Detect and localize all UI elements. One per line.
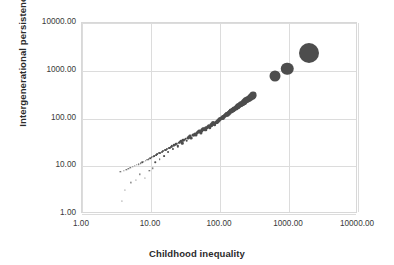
data-point	[126, 169, 127, 170]
data-point	[134, 165, 135, 166]
plot-area	[81, 22, 357, 213]
data-point	[155, 161, 157, 163]
gridline-vertical	[358, 23, 359, 212]
data-point	[128, 168, 129, 169]
y-axis-tick-label: 1000.00	[30, 65, 76, 74]
data-point	[135, 179, 136, 180]
data-point	[123, 170, 124, 171]
data-point	[167, 151, 169, 153]
data-point	[185, 139, 188, 142]
y-axis-tick-label: 1.00	[30, 208, 76, 217]
x-axis-title: Childhood inequality	[0, 243, 394, 261]
data-point	[121, 200, 122, 201]
data-point	[172, 148, 174, 150]
y-axis-title-text: Intergenerational persistence	[17, 0, 28, 127]
data-point	[132, 166, 133, 167]
x-axis-title-text: Childhood inequality	[149, 248, 245, 259]
y-axis-title: Intergenerational persistence	[12, 0, 26, 144]
data-point	[250, 92, 257, 99]
y-axis-tick-label: 10.00	[30, 160, 76, 169]
y-axis-tick-label: 10000.00	[30, 17, 76, 26]
data-point	[144, 178, 145, 179]
x-axis-tick-label: 1000.00	[262, 219, 314, 228]
y-axis-tick-label: 100.00	[30, 113, 76, 122]
x-axis-tick-label: 1.00	[55, 219, 107, 228]
data-point	[124, 189, 125, 190]
data-point	[299, 43, 319, 63]
data-point	[120, 171, 121, 172]
gridline-horizontal	[82, 214, 356, 215]
data-point	[270, 70, 281, 81]
data-point	[163, 155, 165, 157]
data-point	[130, 167, 131, 168]
data-points-layer	[82, 23, 356, 212]
data-point	[149, 170, 150, 171]
data-point	[281, 63, 294, 76]
x-axis-tick-label: 10.00	[124, 219, 176, 228]
data-point	[181, 142, 183, 144]
data-point	[139, 174, 140, 175]
data-point	[152, 168, 153, 169]
x-axis-tick-label: 10000.00	[331, 219, 383, 228]
chart-figure: 1.0010.00100.001000.0010000.00 1.0010.00…	[0, 0, 394, 265]
data-point	[130, 182, 131, 183]
data-point	[159, 158, 161, 160]
data-point	[176, 145, 178, 147]
x-axis-tick-label: 100.00	[193, 219, 245, 228]
